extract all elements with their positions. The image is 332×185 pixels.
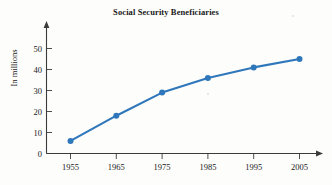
y-tick-label-50: 50	[34, 44, 43, 54]
x-axis-ticks	[71, 154, 300, 160]
data-series-line	[71, 59, 300, 141]
x-tick-label-1985: 1985	[199, 162, 216, 172]
y-tick-label-40: 40	[34, 65, 43, 75]
y-axis-arrowhead	[44, 21, 50, 28]
data-point-1965	[113, 113, 119, 119]
x-axis-arrowhead	[316, 151, 323, 157]
x-tick-label-1965: 1965	[108, 162, 125, 172]
y-axis-tick-labels: 0 10 20 30 40 50	[34, 44, 43, 159]
y-axis-ticks	[47, 49, 53, 154]
plot-area: 0 10 20 30 40 50 1955 1965 1975 1985 199…	[0, 0, 332, 185]
data-point-1995	[251, 64, 257, 70]
x-tick-label-2005: 2005	[291, 162, 308, 172]
y-tick-label-0: 0	[38, 149, 42, 159]
data-point-1955	[68, 138, 74, 144]
x-axis-tick-labels: 1955 1965 1975 1985 1995 2005	[62, 162, 308, 172]
y-tick-label-30: 30	[34, 86, 43, 96]
data-point-1985	[205, 75, 211, 81]
x-tick-label-1955: 1955	[62, 162, 79, 172]
x-tick-label-1995: 1995	[245, 162, 262, 172]
x-tick-label-1975: 1975	[154, 162, 171, 172]
y-tick-label-10: 10	[34, 128, 43, 138]
data-point-1975	[159, 90, 165, 96]
data-series-markers	[68, 56, 303, 144]
y-tick-label-20: 20	[34, 107, 43, 117]
data-point-2005	[297, 56, 303, 62]
chart-figure: Social Security Beneficiaries In million…	[0, 0, 332, 185]
